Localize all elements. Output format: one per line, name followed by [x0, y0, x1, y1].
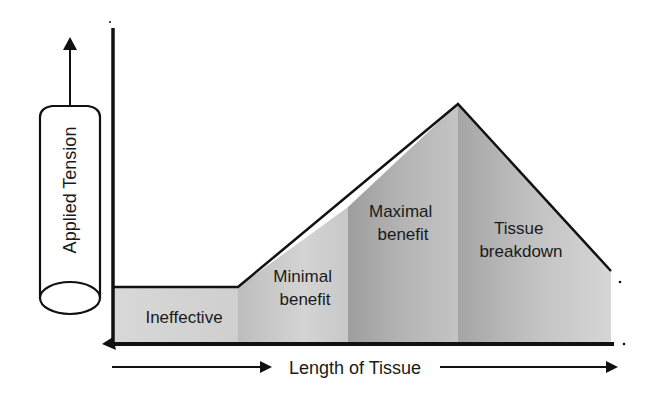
- left-arrow-to-label: [112, 361, 272, 373]
- right-arrow-icon: [440, 361, 618, 373]
- label-ineffective: Ineffective: [145, 308, 222, 327]
- x-axis-label: Length of Tissue: [289, 358, 421, 378]
- y-axis-label: Applied Tension: [60, 127, 80, 254]
- tension-length-diagram: Applied Tension Ineffective Minimal bene…: [0, 0, 662, 396]
- region-maximal-benefit: [348, 104, 458, 343]
- up-arrow-icon: [63, 37, 77, 106]
